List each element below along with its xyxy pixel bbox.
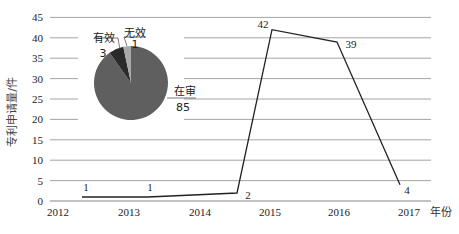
y-tick: 10 <box>32 154 44 166</box>
x-tick: 2015 <box>259 206 282 218</box>
y-tick: 5 <box>38 175 44 187</box>
x-tick: 2013 <box>118 206 141 218</box>
data-label: 39 <box>346 38 358 50</box>
y-tick: 30 <box>32 73 44 85</box>
data-label: 4 <box>404 184 410 196</box>
x-axis-unit: 年份 <box>430 205 452 219</box>
chart: 0 5 10 15 20 25 30 35 40 45 专利申请量/件 2012… <box>0 0 459 234</box>
x-tick: 2016 <box>328 206 351 218</box>
pie-value-valid: 3 <box>100 47 107 60</box>
data-label: 1 <box>83 181 89 193</box>
x-tick: 2014 <box>189 206 212 218</box>
x-axis: 2012 2013 2014 2015 2016 2017 <box>47 206 421 218</box>
y-tick: 45 <box>32 11 44 23</box>
pie-label-valid: 有效 <box>93 31 115 45</box>
y-tick: 20 <box>32 113 44 125</box>
y-tick: 35 <box>32 52 44 64</box>
y-tick: 25 <box>32 93 44 105</box>
data-label: 42 <box>258 18 269 30</box>
x-tick: 2012 <box>47 206 69 218</box>
pie-label-in-review: 在审 <box>174 84 196 98</box>
y-tick: 40 <box>32 32 44 44</box>
pie-value-invalid: 1 <box>132 38 139 51</box>
y-axis: 0 5 10 15 20 25 30 35 40 45 <box>32 11 44 207</box>
y-tick: 0 <box>38 195 44 207</box>
x-tick: 2017 <box>398 206 421 218</box>
pie-value-in-review: 85 <box>176 101 190 114</box>
data-label: 2 <box>245 189 251 201</box>
y-axis-title: 专利申请量/件 <box>5 77 19 147</box>
y-tick: 15 <box>32 134 44 146</box>
pie-chart: 有效 3 无效 1 在审 85 <box>78 26 196 126</box>
data-label: 1 <box>147 181 153 193</box>
